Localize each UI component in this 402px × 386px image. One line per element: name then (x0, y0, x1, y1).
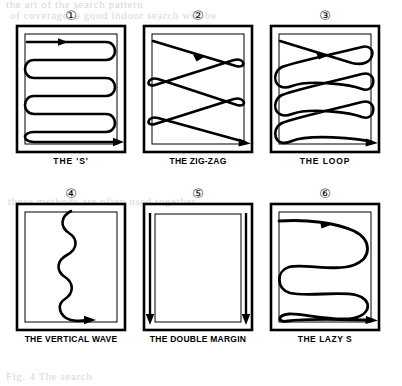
panel-number-3: ③ (268, 8, 382, 23)
panel-inner-margin (25, 212, 117, 322)
arrowhead-exit (366, 139, 379, 147)
panel-the-zig-zag: ② THE ZIG-ZAG (141, 8, 255, 166)
panel-caption-3: THE LOOP (268, 156, 382, 166)
panel-outer-border (144, 204, 252, 330)
arrowhead-top (58, 38, 68, 46)
figure-the-lazy-s (268, 201, 382, 333)
panel-the-s: ① THE 'S' (14, 8, 128, 166)
panel-outer-border (17, 204, 125, 330)
arrowhead-left (146, 314, 154, 325)
arrowhead-exit (84, 316, 96, 324)
path-arrowheads (316, 53, 378, 147)
panel-number-5: ⑤ (141, 186, 255, 201)
panel-number-4: ④ (14, 186, 128, 201)
panel-number-2: ② (141, 8, 255, 23)
panel-inner-margin (279, 34, 371, 144)
figure-the-loop (268, 23, 382, 155)
search-path-the-s (25, 42, 118, 142)
arrowhead-exit (366, 316, 379, 324)
search-path-the-double-margin (150, 213, 246, 317)
panel-outer-border (144, 26, 252, 152)
path-arrowheads (84, 316, 96, 324)
panel-caption-4: THE VERTICAL WAVE (14, 334, 128, 344)
panel-number-1: ① (14, 8, 128, 23)
path-arrowheads (146, 314, 250, 325)
figure-the-s (14, 23, 128, 155)
figure-grid: ① THE 'S' ② THE ZIG- (0, 0, 402, 386)
panel-caption-6: THE LAZY S (268, 334, 382, 344)
figure-the-double-margin (141, 201, 255, 333)
panel-the-vertical-wave: ④ THE VERTICAL WAVE (14, 186, 128, 344)
arrowhead-exit (113, 138, 124, 146)
arrowhead-exit (239, 139, 252, 147)
panel-caption-2: THE ZIG-ZAG (141, 156, 255, 166)
search-path-the-lazy-s (279, 220, 372, 321)
panel-inner-margin (155, 214, 241, 322)
arrowhead-right (242, 314, 250, 325)
panel-the-lazy-s: ⑥ THE LAZY S (268, 186, 382, 344)
panel-caption-5: THE DOUBLE MARGIN (141, 334, 255, 344)
panel-inner-margin (152, 34, 244, 144)
panel-inner-margin (25, 34, 117, 144)
figure-the-vertical-wave (14, 201, 128, 333)
path-arrowheads (320, 221, 378, 324)
panel-the-double-margin: ⑤ THE DOUBLE MARGIN (141, 186, 255, 344)
search-path-the-vertical-wave (58, 211, 90, 321)
panel-the-loop: ③ THE LOOP (268, 8, 382, 166)
figure-the-zig-zag (141, 23, 255, 155)
panel-caption-1: THE 'S' (14, 156, 128, 166)
panel-number-6: ⑥ (268, 186, 382, 201)
